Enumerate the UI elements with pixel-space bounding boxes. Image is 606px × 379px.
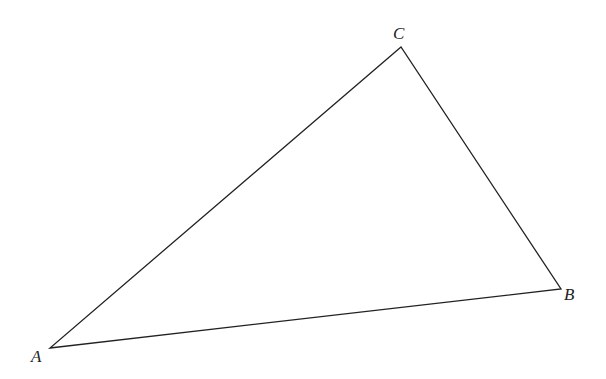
diagram-canvas: A B C [0, 0, 606, 379]
triangle-abc [50, 47, 561, 348]
vertex-label-b: B [564, 285, 575, 304]
triangle-diagram: A B C [0, 0, 606, 379]
vertex-label-a: A [30, 347, 42, 366]
vertex-label-c: C [393, 24, 405, 43]
